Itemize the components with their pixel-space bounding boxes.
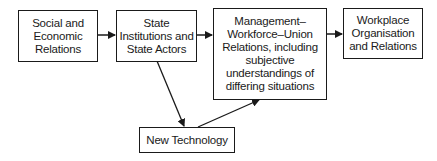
node-label: State Institutions and State Actors xyxy=(119,17,193,56)
arrow-state-to-tech xyxy=(157,61,184,126)
node-label: New Technology xyxy=(146,134,227,147)
node-workplace-organisation: Workplace Organisation and Relations xyxy=(343,8,423,59)
node-label: Social and Economic Relations xyxy=(32,17,84,56)
node-label: Management– Workforce–Union Relations, i… xyxy=(222,15,318,93)
node-social-economic-relations: Social and Economic Relations xyxy=(18,10,98,62)
node-new-technology: New Technology xyxy=(139,127,235,153)
node-state-institutions: State Institutions and State Actors xyxy=(116,10,197,62)
node-label: Workplace Organisation and Relations xyxy=(349,14,417,53)
node-management-workforce-union: Management– Workforce–Union Relations, i… xyxy=(213,8,327,100)
arrow-tech-to-mwu xyxy=(198,100,259,127)
